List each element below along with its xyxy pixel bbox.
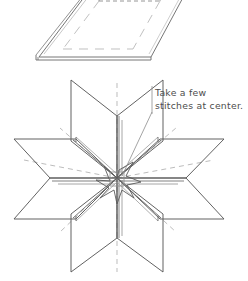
star-point-right-upper [117, 139, 224, 178]
flap-nw-edge-inner [76, 137, 117, 174]
annotation-leader-line [122, 112, 152, 176]
flap-sw-edge-inner [76, 182, 117, 221]
annotation-caption-line-2: stitches at center. [155, 99, 248, 112]
annotation-caption: Take a few stitches at center. [155, 86, 248, 113]
star-point-left-upper [14, 139, 117, 178]
annotation-caption-line-1: Take a few [155, 86, 248, 99]
star-point-lower-right [117, 178, 163, 272]
flap-se-edge-inner [117, 182, 158, 221]
fold-line-w [24, 160, 117, 178]
figure-folded-star [0, 0, 248, 281]
illustration-canvas: Take a few stitches at center. [0, 0, 248, 281]
star-point-upper-left [71, 80, 117, 178]
